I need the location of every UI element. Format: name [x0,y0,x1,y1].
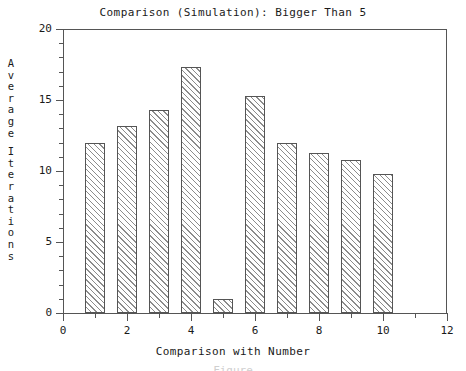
y-axis-title-letter: g [2,116,20,128]
bar [309,153,330,313]
y-axis-title-letter: s [2,251,20,263]
x-axis-tick-label: 0 [43,324,83,337]
x-axis-tick-major [447,313,448,321]
x-axis-tick-major [319,313,320,321]
y-axis-tick-label: 5 [24,235,52,248]
bar [149,110,170,313]
y-axis-tick-label: 20 [24,22,52,35]
x-axis-tick-major [191,313,192,321]
bar [213,299,234,313]
y-axis-title: AverageIterations [2,58,20,262]
x-axis-tick-minor [351,313,352,318]
x-axis-tick-minor [159,313,160,318]
y-axis-tick-label: 15 [24,93,52,106]
y-axis-tick-label: 10 [24,164,52,177]
y-axis-title-letter: I [2,146,20,158]
y-axis-title-letter: t [2,204,20,216]
y-axis-title-letter: r [2,181,20,193]
x-axis-tick-label: 6 [235,324,275,337]
x-axis-tick-minor [287,313,288,318]
caption-cutoff: Figure [0,364,466,371]
bar [341,160,362,313]
x-axis-tick-label: 2 [107,324,147,337]
bar-chart-figure: Comparison (Simulation): Bigger Than 5 A… [0,0,466,371]
x-axis-tick-label: 4 [171,324,211,337]
x-axis-tick-major [383,313,384,321]
bar [245,96,266,313]
x-axis-tick-minor [95,313,96,318]
bar [181,67,202,313]
bar [85,143,106,313]
x-axis-tick-major [127,313,128,321]
chart-title: Comparison (Simulation): Bigger Than 5 [0,6,466,19]
bar [117,126,138,313]
y-axis-tick-label: 0 [24,306,52,319]
y-axis-title-letter: n [2,239,20,251]
x-axis-tick-label: 8 [299,324,339,337]
x-axis-tick-major [255,313,256,321]
x-axis-title: Comparison with Number [0,345,466,358]
x-axis-tick-major [63,313,64,321]
bars-layer [63,29,447,313]
y-axis-title-letter: e [2,128,20,140]
bar [373,174,394,313]
bar [277,143,298,313]
x-axis-tick-label: 10 [363,324,403,337]
y-axis-title-letter: A [2,58,20,70]
x-axis-tick-minor [223,313,224,318]
x-axis-tick-minor [415,313,416,318]
x-axis-tick-label: 12 [427,324,466,337]
